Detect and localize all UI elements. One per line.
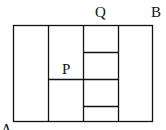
grid-diagram — [0, 0, 166, 130]
label-a: A — [1, 122, 12, 130]
label-b: B — [151, 5, 161, 20]
label-p: P — [62, 62, 70, 77]
label-q: Q — [95, 5, 106, 20]
